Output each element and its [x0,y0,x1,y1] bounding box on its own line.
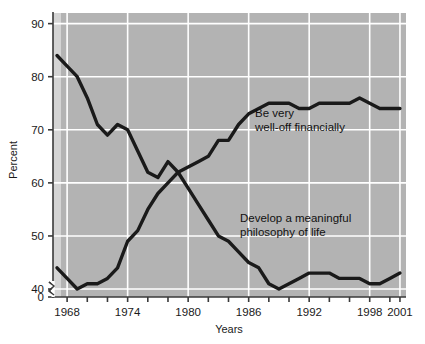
x-tick-label: 1998 [357,306,383,318]
series-annotation-1: well-off financially [254,121,345,133]
x-tick-label: 1992 [296,306,322,318]
plot-area-background [53,13,406,297]
series-annotation-1: Be very [255,107,294,119]
series-annotation-2: philosophy of life [240,226,326,238]
y-axis-label: Percent [7,141,19,179]
line-chart: 0405060708090 19681974198019861992199820… [0,0,425,344]
series-annotation-2: Develop a meaningful [240,212,351,224]
x-tick-label: 1986 [236,306,262,318]
chart-canvas: 0405060708090 19681974198019861992199820… [0,0,425,344]
y-tick-label: 50 [31,230,44,242]
x-tick-label: 1980 [175,306,201,318]
y-tick-label: 80 [31,71,44,83]
x-tick-label: 1974 [115,306,141,318]
y-tick-label: 40 [31,283,44,295]
y-tick-label: 70 [31,124,44,136]
y-tick-label: 90 [31,18,44,30]
x-tick-label: 2001 [387,306,413,318]
x-axis-label: Years [215,323,243,335]
y-tick-label: 60 [31,177,44,189]
x-tick-label: 1968 [54,306,80,318]
